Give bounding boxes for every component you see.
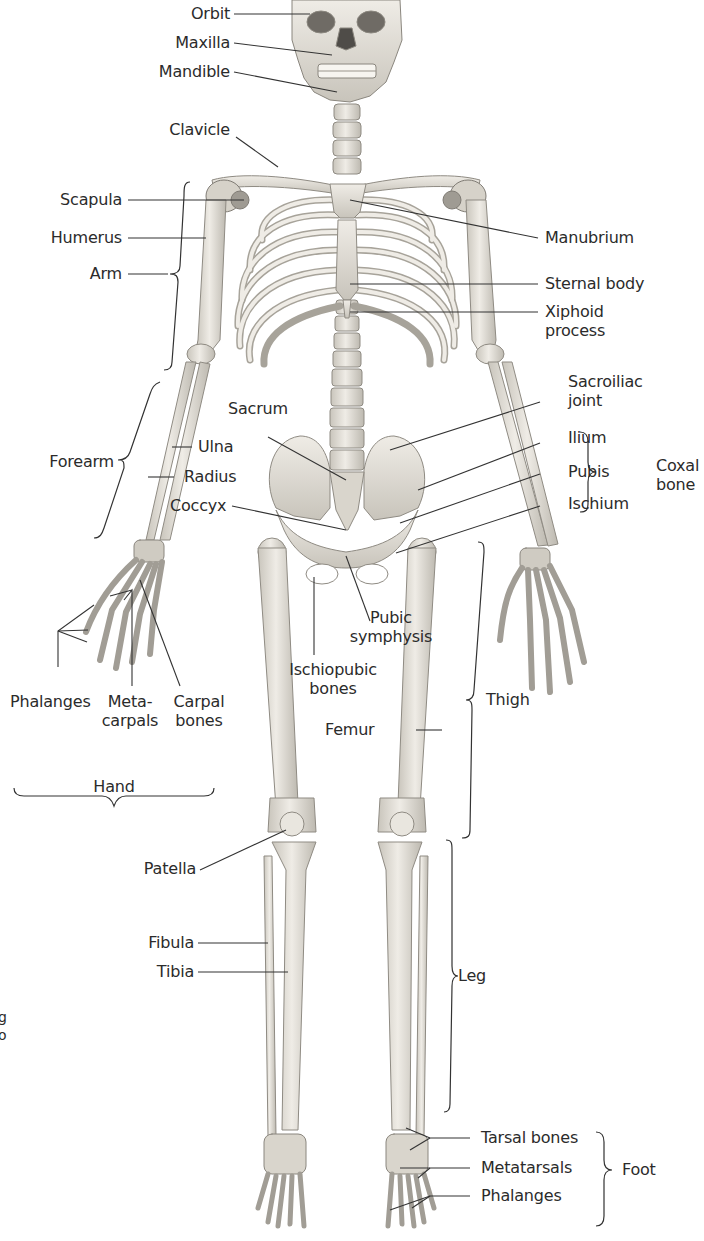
leg-brace bbox=[444, 840, 458, 1112]
label-leg: Leg bbox=[458, 966, 486, 985]
cut-off-text: g o bbox=[0, 1008, 7, 1044]
label-metacarpals: Meta- carpals bbox=[100, 692, 160, 730]
label-sacroiliac-line2: joint bbox=[568, 391, 643, 410]
label-carpal-bones: Carpal bones bbox=[168, 692, 230, 730]
label-hand: Hand bbox=[84, 777, 144, 796]
label-arm: Arm bbox=[90, 264, 122, 283]
label-pubis: Pubis bbox=[568, 462, 609, 481]
label-tibia: Tibia bbox=[157, 962, 194, 981]
label-orbit: Orbit bbox=[191, 4, 230, 23]
label-sacroiliac-line1: Sacroiliac bbox=[568, 372, 643, 391]
label-radius: Radius bbox=[184, 467, 236, 486]
label-ischiopubic-bones: Ischiopubic bones bbox=[278, 660, 388, 698]
cut-off-text-line1: g bbox=[0, 1008, 7, 1026]
label-scapula: Scapula bbox=[60, 190, 122, 209]
label-maxilla: Maxilla bbox=[175, 33, 230, 52]
label-coxal-bone: Coxal bone bbox=[656, 456, 699, 494]
label-thigh: Thigh bbox=[486, 690, 530, 709]
label-metatarsals: Metatarsals bbox=[481, 1158, 572, 1177]
label-pubic-symphysis: Pubic symphysis bbox=[344, 608, 438, 646]
label-forearm: Forearm bbox=[49, 452, 114, 471]
label-ilium: Ilium bbox=[568, 428, 606, 447]
label-ischium: Ischium bbox=[568, 494, 629, 513]
label-coccyx: Coccyx bbox=[170, 496, 226, 515]
label-ischiopubic-line1: Ischiopubic bbox=[278, 660, 388, 679]
skeleton-diagram: Orbit Maxilla Mandible Clavicle Scapula … bbox=[0, 0, 704, 1241]
label-sacroiliac-joint: Sacroiliac joint bbox=[568, 372, 643, 410]
lower-legs bbox=[264, 842, 428, 1136]
label-manubrium: Manubrium bbox=[545, 228, 634, 247]
label-foot: Foot bbox=[622, 1160, 656, 1179]
label-coxal-line1: Coxal bbox=[656, 456, 699, 475]
label-humerus: Humerus bbox=[51, 228, 122, 247]
label-mandible: Mandible bbox=[159, 62, 230, 81]
label-pubic-line2: symphysis bbox=[344, 627, 438, 646]
arm-brace bbox=[164, 182, 190, 370]
label-tarsal-bones: Tarsal bones bbox=[481, 1128, 578, 1147]
label-carpal-line1: Carpal bbox=[168, 692, 230, 711]
label-femur: Femur bbox=[325, 720, 374, 739]
label-fibula: Fibula bbox=[148, 933, 194, 952]
label-metacarpals-line1: Meta- bbox=[100, 692, 160, 711]
label-xiphoid-process: Xiphoid process bbox=[545, 302, 605, 340]
label-sternal-body: Sternal body bbox=[545, 274, 644, 293]
label-pubic-line1: Pubic bbox=[344, 608, 438, 627]
foot-brace bbox=[596, 1132, 612, 1226]
label-coxal-line2: bone bbox=[656, 475, 699, 494]
label-carpal-line2: bones bbox=[168, 711, 230, 730]
label-ulna: Ulna bbox=[198, 437, 233, 456]
label-xiphoid-line1: Xiphoid bbox=[545, 302, 605, 321]
thigh-brace bbox=[462, 542, 484, 838]
label-phalanges-foot: Phalanges bbox=[481, 1186, 562, 1205]
label-xiphoid-line2: process bbox=[545, 321, 605, 340]
label-clavicle: Clavicle bbox=[169, 120, 230, 139]
label-patella: Patella bbox=[144, 859, 196, 878]
label-phalanges-hand: Phalanges bbox=[10, 692, 91, 711]
label-sacrum: Sacrum bbox=[228, 399, 288, 418]
label-ischiopubic-line2: bones bbox=[278, 679, 388, 698]
label-metacarpals-line2: carpals bbox=[100, 711, 160, 730]
cut-off-text-line2: o bbox=[0, 1026, 7, 1044]
feet bbox=[258, 1134, 434, 1226]
